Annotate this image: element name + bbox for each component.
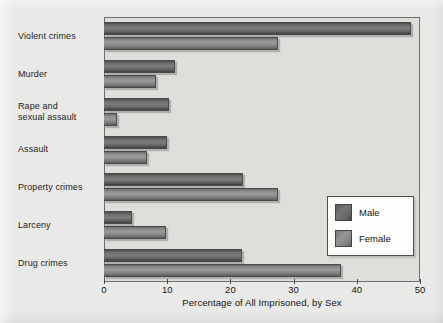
value-axis-ticks: 01020304050: [104, 284, 420, 298]
category-label-1: Murder: [18, 69, 47, 80]
bar-male-2: [104, 98, 169, 111]
bar-male-6: [104, 249, 242, 262]
legend-item-male: Male: [335, 204, 380, 221]
bar-female-1: [104, 75, 156, 88]
legend-label-male: Male: [359, 207, 380, 218]
category-label-6: Drug crimes: [18, 258, 68, 269]
legend-swatch-female: [335, 230, 352, 247]
bar-male-5: [104, 211, 132, 224]
x-axis-title: Percentage of All Imprisoned, by Sex: [104, 297, 420, 308]
category-axis-labels: Violent crimesMurderRape and sexual assa…: [18, 17, 98, 282]
tick-label-4: 40: [352, 284, 363, 295]
legend-label-female: Female: [359, 233, 391, 244]
chart-legend: Male Female: [327, 196, 414, 256]
category-label-4: Property crimes: [18, 182, 83, 193]
bar-male-0: [104, 22, 411, 35]
tick-label-5: 50: [415, 284, 426, 295]
bar-male-1: [104, 60, 175, 73]
category-label-2: Rape and sexual assault: [18, 101, 76, 122]
chart-page: Violent crimesMurderRape and sexual assa…: [0, 0, 443, 323]
bar-male-3: [104, 136, 167, 149]
category-label-0: Violent crimes: [18, 31, 76, 42]
bar-female-6: [104, 264, 341, 277]
legend-swatch-male: [335, 204, 352, 221]
tick-label-1: 10: [162, 284, 173, 295]
legend-item-female: Female: [335, 230, 391, 247]
category-label-3: Assault: [18, 144, 48, 155]
bar-female-5: [104, 226, 166, 239]
bar-female-2: [104, 113, 117, 126]
tick-label-3: 30: [288, 284, 299, 295]
bar-male-4: [104, 173, 243, 186]
tick-label-0: 0: [101, 284, 106, 295]
bar-female-3: [104, 151, 147, 164]
tick-label-2: 20: [225, 284, 236, 295]
bar-female-4: [104, 188, 278, 201]
category-label-5: Larceny: [18, 220, 51, 231]
bar-female-0: [104, 37, 278, 50]
bar-chart: Violent crimesMurderRape and sexual assa…: [0, 0, 443, 323]
